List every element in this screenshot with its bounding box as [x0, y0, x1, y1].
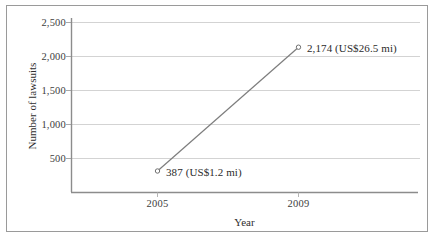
- data-point-marker-2005: [155, 169, 159, 173]
- y-tick-label: 2,000: [41, 51, 66, 62]
- x-tick-2005: 2005: [128, 198, 188, 212]
- data-line-series-1: [158, 47, 299, 171]
- data-point-marker-2009: [296, 45, 300, 49]
- data-point-label-2009: 2,174 (US$26.5 mi): [307, 42, 397, 54]
- plot-area: [0, 0, 445, 239]
- y-tick-500: 500: [16, 153, 66, 165]
- y-axis-title: Number of lawsuits: [26, 26, 38, 186]
- y-tick-2500: 2,500: [16, 17, 66, 29]
- x-axis-title: Year: [71, 216, 418, 228]
- y-tick-label: 500: [50, 153, 66, 164]
- y-tick-1500: 1,500: [16, 85, 66, 97]
- y-tick-label: 2,500: [41, 17, 66, 28]
- y-tick-2000: 2,000: [16, 51, 66, 63]
- y-tick-label: 1,000: [41, 119, 66, 130]
- x-tick-label: 2009: [269, 198, 329, 209]
- x-tick-label: 2005: [128, 198, 188, 209]
- y-tick-label: 1,500: [41, 85, 66, 96]
- y-axis-ticks: [66, 23, 71, 159]
- data-point-label-2005: 387 (US$1.2 mi): [166, 166, 242, 178]
- x-tick-2009: 2009: [269, 198, 329, 212]
- chart-figure: 2,500 2,000 1,500 1,000 500 2005 2009 38…: [0, 0, 445, 239]
- y-tick-1000: 1,000: [16, 119, 66, 131]
